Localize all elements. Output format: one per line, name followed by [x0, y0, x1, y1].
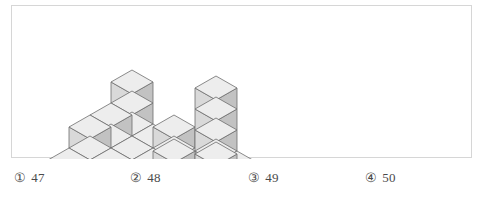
figure-frame: [11, 5, 472, 158]
choice-value: 49: [265, 168, 279, 188]
answer-choices: ①47 ②48 ③49 ④50: [0, 168, 482, 194]
choice-value: 50: [382, 168, 396, 188]
cube-stack-svg: [12, 6, 473, 159]
choice-value: 48: [147, 168, 161, 188]
choice-marker: ①: [14, 168, 26, 188]
answer-choice-2[interactable]: ②48: [130, 168, 161, 188]
choice-marker: ②: [130, 168, 142, 188]
choice-marker: ③: [248, 168, 260, 188]
answer-choice-4[interactable]: ④50: [365, 168, 396, 188]
choice-value: 47: [31, 168, 45, 188]
choice-marker: ④: [365, 168, 377, 188]
answer-choice-1[interactable]: ①47: [14, 168, 45, 188]
answer-choice-3[interactable]: ③49: [248, 168, 279, 188]
cube-figure: [12, 6, 473, 159]
